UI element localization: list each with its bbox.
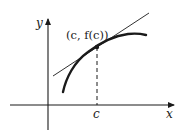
tangent-diagram: y x c (c, f(c)) (0, 0, 180, 137)
x-axis-label: x (166, 107, 173, 121)
y-axis-label: y (35, 16, 43, 30)
c-tick-label: c (93, 107, 100, 121)
tangent-point (95, 45, 99, 49)
function-curve (63, 34, 146, 92)
point-label: (c, f(c)) (66, 28, 108, 42)
